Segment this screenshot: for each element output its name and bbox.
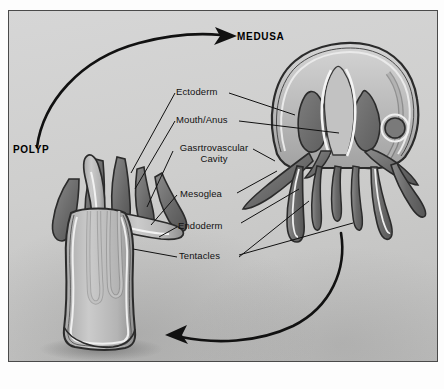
leader-tentacles-left (133, 249, 177, 257)
diagram-artwork (9, 11, 437, 361)
medusa-tentacle-5 (371, 167, 392, 239)
heading-medusa: MEDUSA (237, 31, 285, 42)
medusa-illustration (243, 43, 426, 242)
medusa-tentacle-3 (332, 166, 342, 221)
illustration-frame: POLYP MEDUSA Ectoderm Mouth/Anus Gasrtro… (8, 10, 438, 362)
arrow-medusa-to-polyp-head (165, 325, 188, 344)
label-ectoderm: Ectoderm (176, 86, 217, 97)
label-tentacles: Tentacles (179, 250, 220, 261)
label-mesoglea: Mesoglea (180, 188, 222, 199)
heading-polyp: POLYP (13, 144, 49, 155)
medusa-tentacle-4 (352, 166, 363, 230)
medusa-rhopalium (385, 118, 405, 138)
label-gastrovascular-line2: Cavity (201, 153, 228, 164)
label-gastrovascular-line1: Gasrtrovascular (180, 142, 249, 153)
medusa-tentacle-6 (391, 163, 426, 217)
leader-gastrovascular-right (253, 149, 275, 161)
label-mouth-anus: Mouth/Anus (176, 114, 228, 125)
figure-canvas: POLYP MEDUSA Ectoderm Mouth/Anus Gasrtro… (0, 0, 444, 389)
label-endoderm: Endoderm (178, 220, 223, 231)
label-gastrovascular-cavity: Gasrtrovascular Cavity (172, 142, 256, 164)
polyp-illustration (52, 155, 186, 350)
